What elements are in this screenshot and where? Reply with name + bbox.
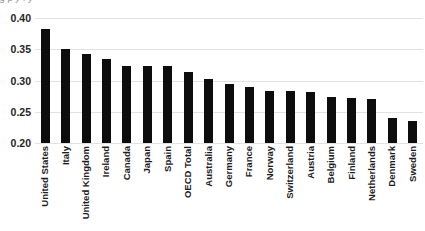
clipped-title-remnant: g p y f y xyxy=(0,0,425,5)
bar xyxy=(347,98,356,143)
bar xyxy=(184,72,193,143)
bar xyxy=(82,54,91,143)
x-tick-label: Sweden xyxy=(408,146,418,182)
x-tick-label: United States xyxy=(40,146,50,207)
bar xyxy=(408,121,417,143)
bar xyxy=(102,59,111,143)
y-tick-label: 0.20 xyxy=(0,138,31,148)
x-tick: Netherlands xyxy=(365,144,379,230)
x-tick: Japan xyxy=(140,144,154,230)
x-tick-label: Denmark xyxy=(387,146,397,187)
x-tick: Sweden xyxy=(406,144,420,230)
x-tick: Denmark xyxy=(385,144,399,230)
bar xyxy=(306,92,315,143)
x-tick: Austria xyxy=(304,144,318,230)
bar xyxy=(225,84,234,143)
x-axis: United StatesItalyUnited KingdomIrelandC… xyxy=(35,144,423,231)
x-tick-label: Belgium xyxy=(326,146,336,183)
x-tick-label: Spain xyxy=(163,146,173,172)
x-tick-label: Italy xyxy=(61,146,71,165)
x-tick-label: OECD Total xyxy=(183,146,193,198)
x-tick: Australia xyxy=(202,144,216,230)
x-tick: OECD Total xyxy=(181,144,195,230)
bar-chart: g p y f y 0.400.350.300.250.20 United St… xyxy=(0,0,425,231)
x-tick-label: Canada xyxy=(122,146,132,180)
bar xyxy=(143,66,152,143)
plot-area xyxy=(35,18,423,143)
x-tick: Spain xyxy=(161,144,175,230)
bar xyxy=(245,87,254,143)
x-tick: Belgium xyxy=(324,144,338,230)
x-tick: Switzerland xyxy=(283,144,297,230)
x-tick: Finland xyxy=(345,144,359,230)
y-tick-label: 0.30 xyxy=(0,76,31,86)
x-tick: Italy xyxy=(59,144,73,230)
x-tick-label: Germany xyxy=(224,146,234,187)
x-tick-label: Norway xyxy=(265,146,275,180)
x-tick-label: Austria xyxy=(306,146,316,179)
bar xyxy=(41,29,50,143)
x-tick-label: France xyxy=(244,146,254,177)
y-tick-label: 0.35 xyxy=(0,44,31,54)
bar xyxy=(61,49,70,143)
x-tick-label: Australia xyxy=(204,146,214,187)
bar xyxy=(204,79,213,143)
x-tick: United States xyxy=(38,144,52,230)
x-tick: United Kingdom xyxy=(79,144,93,230)
x-tick: Germany xyxy=(222,144,236,230)
x-tick-label: United Kingdom xyxy=(81,146,91,219)
x-tick: Ireland xyxy=(99,144,113,230)
x-tick-label: Finland xyxy=(347,146,357,180)
x-tick-label: Netherlands xyxy=(367,146,377,201)
x-tick: Canada xyxy=(120,144,134,230)
bar xyxy=(163,66,172,143)
bars-group xyxy=(35,18,423,143)
x-tick: Norway xyxy=(263,144,277,230)
x-tick-label: Japan xyxy=(142,146,152,173)
x-tick: France xyxy=(242,144,256,230)
x-tick-label: Ireland xyxy=(101,146,111,177)
bar xyxy=(367,99,376,143)
y-axis: 0.400.350.300.250.20 xyxy=(0,0,34,231)
x-tick-label: Switzerland xyxy=(285,146,295,199)
bar xyxy=(388,118,397,143)
y-tick-label: 0.25 xyxy=(0,107,31,117)
bar xyxy=(286,91,295,143)
bar xyxy=(122,66,131,143)
bar xyxy=(265,91,274,143)
bar xyxy=(327,97,336,143)
y-tick-label: 0.40 xyxy=(0,13,31,23)
